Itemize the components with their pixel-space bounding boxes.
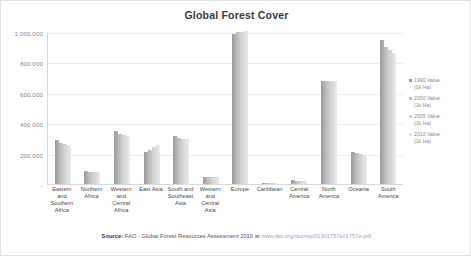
y-tick-label: 400.000: [20, 121, 43, 128]
source-note: Source: FAO - Global Forest Resources As…: [1, 233, 471, 239]
bar[interactable]: [274, 183, 278, 184]
bar[interactable]: [303, 181, 307, 184]
plot-area: [47, 33, 403, 185]
bar[interactable]: [333, 81, 337, 184]
x-axis-category-label: Eastern and Southern Africa: [47, 186, 77, 214]
legend-label: 1990 Value (1k Ha): [414, 77, 440, 90]
y-tick-label: 800.000: [20, 60, 43, 67]
bar[interactable]: [392, 53, 396, 184]
bar-group: [78, 33, 108, 184]
bar-group: [225, 33, 255, 184]
x-axis-category-label: Caribbean: [255, 186, 285, 214]
source-url[interactable]: www.fao.org/docrep/013/i1757e/i1757e.pdf: [261, 233, 371, 239]
legend-swatch-icon: [409, 79, 412, 82]
x-axis-category-label: South and Southeast Asia: [166, 186, 196, 214]
x-axis-category-label: Western and Central Asia: [195, 186, 225, 214]
legend-item[interactable]: 2000 Value (1k Ha): [409, 95, 471, 108]
y-tick-label: -: [41, 182, 43, 189]
legend-swatch-icon: [409, 97, 412, 100]
x-axis-category-label: Central America: [284, 186, 314, 214]
y-tick-label: 1.000.000: [15, 30, 43, 37]
x-axis-category-label: Northern Africa: [77, 186, 107, 214]
chart-container: Global Forest Cover 1.000.000800.000600.…: [0, 0, 471, 256]
bar[interactable]: [244, 31, 248, 184]
bar[interactable]: [67, 145, 71, 184]
legend-item[interactable]: 2005 Value (1k Ha): [409, 113, 471, 126]
legend-swatch-icon: [409, 115, 412, 118]
bar-group: [196, 33, 226, 184]
y-tick-label: 600.000: [20, 90, 43, 97]
bar-group: [285, 33, 315, 184]
x-axis-category-label: South America: [373, 186, 403, 214]
bar-group: [314, 33, 344, 184]
y-tick-label: 200.000: [20, 151, 43, 158]
legend-item[interactable]: 2010 Value (1k Ha): [409, 131, 471, 144]
legend-label: 2010 Value (1k Ha): [414, 131, 440, 144]
source-text: FAO - Global Forest Resources Assessment…: [125, 233, 260, 239]
bars-layer: [48, 33, 403, 184]
bar-group: [107, 33, 137, 184]
legend-item[interactable]: 1990 Value (1k Ha): [409, 77, 471, 90]
x-axis-category-label: Europe: [225, 186, 255, 214]
source-label: Source:: [102, 233, 124, 239]
bar[interactable]: [126, 136, 130, 184]
plot-wrapper: 1.000.000800.000600.000400.000200.000-: [1, 33, 471, 185]
bar-group: [137, 33, 167, 184]
x-axis-category-label: North America: [314, 186, 344, 214]
chart-title: Global Forest Cover: [1, 9, 471, 21]
bar[interactable]: [215, 177, 219, 184]
bar-group: [344, 33, 374, 184]
legend-label: 2000 Value (1k Ha): [414, 95, 440, 108]
x-axis-category-label: Oceania: [344, 186, 374, 214]
x-axis: Eastern and Southern AfricaNorthern Afri…: [47, 186, 403, 214]
bar-group: [48, 33, 78, 184]
legend-swatch-icon: [409, 133, 412, 136]
bar[interactable]: [363, 155, 367, 184]
chart-legend: 1990 Value (1k Ha)2000 Value (1k Ha)2005…: [409, 77, 471, 149]
x-axis-category-label: East Asia: [136, 186, 166, 214]
legend-label: 2005 Value (1k Ha): [414, 113, 440, 126]
y-axis: 1.000.000800.000600.000400.000200.000-: [1, 33, 47, 185]
bar[interactable]: [185, 139, 189, 184]
x-axis-category-label: Western and Central Africa: [106, 186, 136, 214]
bar-group: [373, 33, 403, 184]
bar[interactable]: [156, 145, 160, 184]
bar-group: [166, 33, 196, 184]
bar[interactable]: [96, 172, 100, 184]
bar-group: [255, 33, 285, 184]
